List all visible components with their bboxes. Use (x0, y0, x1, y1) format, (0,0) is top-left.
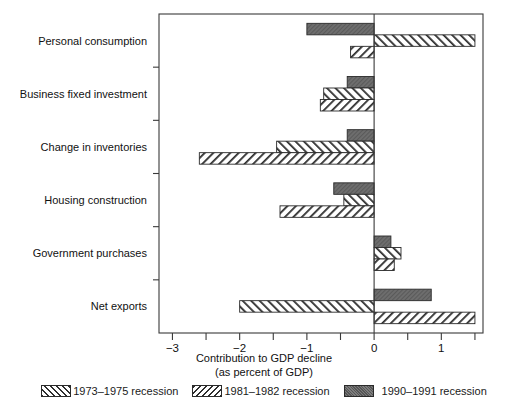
bar-business-fixed-investment-1990–1991 (347, 77, 374, 89)
bar-government-purchases-1981–1982 (374, 248, 401, 260)
category-label-housing-construction: Housing construction (44, 194, 147, 206)
axis-frame (153, 14, 483, 340)
bar-housing-construction-1990–1991 (334, 183, 374, 195)
bar-personal-consumption-1973–1975 (351, 46, 375, 58)
bar-government-purchases-1990–1991 (374, 236, 391, 248)
legend-label-1981-1982: 1981–1982 recession (224, 385, 329, 397)
legend-swatch-back-hatch-icon (192, 385, 222, 397)
bars-layer (199, 23, 475, 323)
category-label-personal-consumption: Personal consumption (38, 35, 147, 47)
legend-label-1973-1975: 1973–1975 recession (73, 385, 178, 397)
x-axis-title-line1: Contribution to GDP decline (0, 352, 528, 364)
bar-net-exports-1990–1991 (374, 289, 431, 301)
legend-swatch-solid-gray-icon (344, 385, 374, 397)
bar-housing-construction-1973–1975 (280, 206, 374, 218)
chart-legend: 1973–1975 recession 1981–1982 recession … (0, 385, 528, 397)
bar-personal-consumption-1990–1991 (307, 23, 374, 35)
bar-change-in-inventories-1981–1982 (277, 141, 374, 153)
bar-net-exports-1973–1975 (374, 312, 475, 324)
bar-business-fixed-investment-1981–1982 (324, 88, 374, 100)
bar-change-in-inventories-1973–1975 (199, 153, 374, 165)
bar-change-in-inventories-1990–1991 (347, 130, 374, 142)
bar-personal-consumption-1981–1982 (374, 35, 475, 47)
legend-label-1990-1991: 1990–1991 recession (382, 385, 487, 397)
x-axis-title-line2: (as percent of GDP) (0, 366, 528, 378)
bar-business-fixed-investment-1973–1975 (320, 100, 374, 112)
legend-item-1990-1991: 1990–1991 recession (344, 385, 487, 397)
legend-item-1981-1982: 1981–1982 recession (192, 385, 343, 397)
bar-net-exports-1981–1982 (240, 301, 374, 313)
category-label-business-fixed-investment: Business fixed investment (20, 88, 147, 100)
legend-item-1973-1975: 1973–1975 recession (41, 385, 192, 397)
category-label-government-purchases: Government purchases (33, 247, 147, 259)
legend-swatch-forward-hatch-icon (41, 385, 71, 397)
bar-government-purchases-1973–1975 (374, 259, 394, 271)
bar-housing-construction-1981–1982 (344, 194, 374, 206)
gdp-contribution-chart: Personal consumptionBusiness fixed inves… (0, 0, 528, 414)
plot-frame (159, 14, 483, 333)
category-label-change-in-inventories: Change in inventories (41, 141, 147, 153)
category-label-net-exports: Net exports (91, 300, 147, 312)
